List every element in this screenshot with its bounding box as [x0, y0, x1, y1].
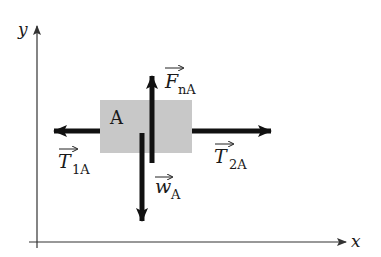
x-axis-label: x — [351, 231, 361, 251]
label-t-2a: T 2A — [214, 144, 247, 172]
object-label: A — [109, 107, 124, 128]
svg-text:T: T — [214, 145, 228, 167]
svg-text:T: T — [58, 150, 72, 172]
label-t-1a: T 1A — [58, 149, 90, 177]
svg-text:1A: 1A — [72, 162, 90, 177]
svg-text:A: A — [170, 187, 181, 202]
label-f-na: F nA — [164, 68, 196, 97]
free-body-diagram: y x A F nA w A T 1A — [0, 0, 381, 257]
svg-text:nA: nA — [178, 82, 196, 97]
svg-text:w: w — [155, 175, 171, 197]
svg-text:2A: 2A — [229, 157, 247, 172]
label-w-a: w A — [155, 175, 181, 202]
object-a: A — [100, 100, 192, 153]
svg-text:F: F — [164, 70, 179, 92]
y-axis-label: y — [17, 19, 28, 39]
